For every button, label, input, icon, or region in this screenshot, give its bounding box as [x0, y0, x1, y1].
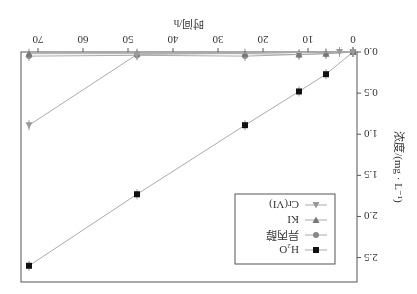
- legend-label: 异丙醇: [266, 229, 299, 242]
- legend-label: H₂O: [279, 244, 299, 256]
- x-tick-label: 40: [167, 34, 179, 46]
- y-tick-label: 0.5: [364, 87, 378, 99]
- x-tick-label: 20: [257, 34, 269, 46]
- line-chart: 0102030405060700.00.51.01.52.02.5时间/h浓度/…: [0, 0, 417, 294]
- y-tick-label: 0.0: [364, 46, 378, 58]
- y-axis-label: 浓度/(mg · L⁻¹): [392, 131, 406, 203]
- x-tick-label: 0: [350, 34, 356, 46]
- x-tick-label: 70: [32, 34, 44, 46]
- x-tick-label: 60: [77, 34, 89, 46]
- x-tick-label: 50: [122, 34, 134, 46]
- y-tick-label: 1.5: [364, 169, 378, 181]
- legend-label: KI: [287, 214, 299, 226]
- y-tick-label: 2.0: [364, 210, 378, 222]
- x-axis-label: 时间/h: [173, 18, 204, 30]
- legend-label: Cr(VI): [269, 198, 299, 211]
- chart-container: 0102030405060700.00.51.01.52.02.5时间/h浓度/…: [0, 0, 417, 294]
- x-tick-label: 10: [302, 34, 314, 46]
- x-tick-label: 30: [212, 34, 224, 46]
- y-tick-label: 2.5: [364, 252, 378, 264]
- y-tick-label: 1.0: [364, 128, 378, 140]
